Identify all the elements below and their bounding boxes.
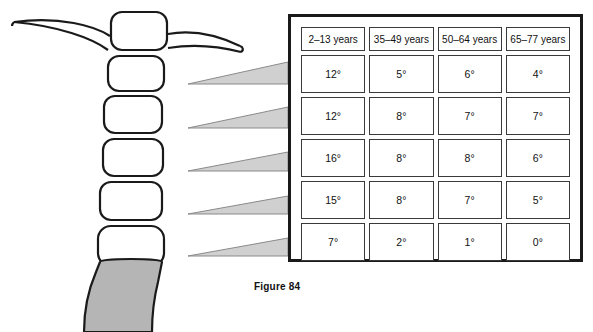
column-header-age-2-13: 2–13 years — [301, 27, 365, 51]
disc-wedge-3 — [188, 152, 288, 171]
column-header-age-65-77: 65–77 years — [506, 27, 570, 51]
table-cell: 7° — [506, 97, 570, 135]
table-cell: 6° — [438, 55, 502, 93]
column-header-age-35-49: 35–49 years — [369, 27, 433, 51]
sacrum-shape — [84, 259, 162, 332]
table-cell: 6° — [506, 139, 570, 177]
table-cell: 5° — [369, 55, 433, 93]
table-row: 15° 8° 7° 5° — [301, 181, 570, 219]
table-body: 12° 5° 6° 4° 12° 8° 7° 7° 16° 8° 8° 6° — [301, 55, 570, 261]
table-row: 7° 2° 1° 0° — [301, 223, 570, 261]
table-header: 2–13 years 35–49 years 50–64 years 65–77… — [301, 27, 570, 51]
vertebra-body-2 — [108, 56, 164, 91]
table-row: 16° 8° 8° 6° — [301, 139, 570, 177]
table-row: 12° 5° 6° 4° — [301, 55, 570, 93]
table-row: 12° 8° 7° 7° — [301, 97, 570, 135]
figure-84: 2–13 years 35–49 years 50–64 years 65–77… — [0, 0, 593, 332]
measurements-table-container: 2–13 years 35–49 years 50–64 years 65–77… — [288, 14, 583, 262]
table-cell: 8° — [369, 139, 433, 177]
table-cell: 16° — [301, 139, 365, 177]
table-cell: 5° — [506, 181, 570, 219]
figure-caption: Figure 84 — [254, 281, 300, 292]
table-cell: 0° — [506, 223, 570, 261]
table-cell: 7° — [438, 97, 502, 135]
measurements-table: 2–13 years 35–49 years 50–64 years 65–77… — [297, 23, 574, 265]
table-cell: 12° — [301, 55, 365, 93]
table-cell: 8° — [438, 139, 502, 177]
table-cell: 4° — [506, 55, 570, 93]
vertebra-body-3 — [104, 96, 162, 133]
vertebra-body-1 — [111, 12, 167, 50]
table-cell: 7° — [301, 223, 365, 261]
disc-wedge-1 — [188, 62, 288, 84]
disc-wedge-2 — [188, 107, 288, 128]
table-cell: 8° — [369, 97, 433, 135]
table-cell: 1° — [438, 223, 502, 261]
table-cell: 15° — [301, 181, 365, 219]
column-header-age-50-64: 50–64 years — [438, 27, 502, 51]
disc-wedge-5 — [188, 238, 288, 256]
table-cell: 8° — [369, 181, 433, 219]
table-cell: 12° — [301, 97, 365, 135]
table-cell: 7° — [438, 181, 502, 219]
table-cell: 2° — [369, 223, 433, 261]
vertebra-body-5 — [100, 182, 162, 220]
table-header-row: 2–13 years 35–49 years 50–64 years 65–77… — [301, 27, 570, 51]
disc-wedge-4 — [188, 196, 288, 214]
vertebra-body-4 — [103, 139, 163, 176]
